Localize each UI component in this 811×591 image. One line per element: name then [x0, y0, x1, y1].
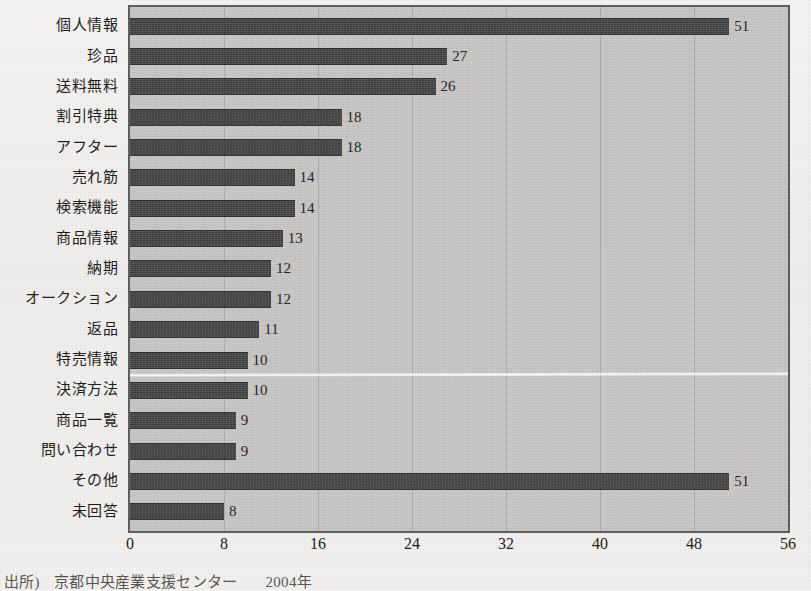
- bar-row: 14: [130, 193, 788, 223]
- bar-value-label: 13: [288, 231, 303, 246]
- bar-value-label: 10: [253, 353, 268, 368]
- category-label: 問い合わせ: [41, 443, 119, 458]
- bar: [130, 382, 248, 399]
- bar: [130, 169, 295, 186]
- x-tick-16: 16: [310, 536, 326, 552]
- bar-value-label: 9: [241, 413, 249, 428]
- category-label: アフター: [56, 140, 118, 155]
- bar-value-label: 27: [452, 49, 467, 64]
- category-label: 商品情報: [56, 231, 118, 246]
- category-label: 割引特典: [56, 109, 118, 124]
- category-label: 未回答: [72, 504, 119, 519]
- x-tick-0: 0: [126, 536, 134, 552]
- bar-value-label: 12: [276, 261, 291, 276]
- bar-row: 51: [130, 466, 788, 496]
- bar: [130, 473, 729, 490]
- x-tick-8: 8: [220, 536, 228, 552]
- category-label: 特売情報: [56, 352, 118, 367]
- bar-row: 10: [130, 375, 788, 405]
- bar: [130, 321, 259, 338]
- category-label: 納期: [87, 261, 118, 276]
- bar: [130, 503, 224, 520]
- bar-value-label: 51: [734, 19, 749, 34]
- category-label: 送料無料: [56, 79, 118, 94]
- bar: [130, 291, 271, 308]
- bar-row: 13: [130, 223, 788, 253]
- bar-rows: 5127261818141413121211101099518: [130, 7, 788, 531]
- bar: [130, 18, 729, 35]
- bar-row: 27: [130, 41, 788, 71]
- bar-value-label: 8: [229, 504, 237, 519]
- x-tick-40: 40: [592, 536, 608, 552]
- bar-row: 26: [130, 72, 788, 102]
- chart-plot-area: 5127261818141413121211101099518: [128, 5, 790, 533]
- category-label: 珍品: [87, 49, 118, 64]
- x-tick-48: 48: [686, 536, 702, 552]
- x-tick-32: 32: [498, 536, 514, 552]
- bar-value-label: 14: [300, 170, 315, 185]
- bar: [130, 200, 295, 217]
- bar-value-label: 26: [441, 79, 456, 94]
- bar-row: 12: [130, 254, 788, 284]
- category-label: 決済方法: [56, 382, 118, 397]
- gridline-56: [788, 7, 789, 531]
- bar-row: 8: [130, 497, 788, 527]
- bar-value-label: 10: [253, 383, 268, 398]
- bar-row: 12: [130, 284, 788, 314]
- bar-value-label: 11: [264, 322, 278, 337]
- bar-value-label: 9: [241, 444, 249, 459]
- x-axis-tick-labels: 08162432404856: [128, 536, 790, 562]
- bar: [130, 78, 436, 95]
- bar-value-label: 18: [347, 140, 362, 155]
- bar-value-label: 51: [734, 474, 749, 489]
- source-year: 2004年: [266, 574, 313, 590]
- bar-row: 14: [130, 163, 788, 193]
- bar-row: 11: [130, 315, 788, 345]
- category-label: オークション: [25, 291, 118, 306]
- category-label: その他: [72, 473, 119, 488]
- source-note: 出所)京都中央産業支援センター2004年: [4, 570, 312, 591]
- bar-row: 18: [130, 132, 788, 162]
- bar: [130, 139, 342, 156]
- category-axis-labels: 個人情報珍品送料無料割引特典アフター売れ筋検索機能商品情報納期オークション返品特…: [0, 5, 122, 533]
- source-label: 出所): [4, 574, 40, 590]
- bar: [130, 412, 236, 429]
- category-label: 検索機能: [56, 200, 118, 215]
- bar: [130, 352, 248, 369]
- source-name: 京都中央産業支援センター: [54, 574, 238, 590]
- category-label: 商品一覧: [56, 413, 118, 428]
- bar: [130, 230, 283, 247]
- bar-row: 18: [130, 102, 788, 132]
- category-label: 返品: [87, 322, 118, 337]
- bar: [130, 443, 236, 460]
- bar-value-label: 18: [347, 110, 362, 125]
- bar-row: 51: [130, 11, 788, 41]
- category-label: 個人情報: [56, 18, 118, 33]
- x-tick-24: 24: [404, 536, 420, 552]
- bar: [130, 109, 342, 126]
- bar-row: 9: [130, 406, 788, 436]
- bar-value-label: 14: [300, 201, 315, 216]
- bar-row: 10: [130, 345, 788, 375]
- bar: [130, 260, 271, 277]
- bar-row: 9: [130, 436, 788, 466]
- x-tick-56: 56: [780, 536, 796, 552]
- bar-value-label: 12: [276, 292, 291, 307]
- category-label: 売れ筋: [72, 170, 119, 185]
- bar: [130, 48, 447, 65]
